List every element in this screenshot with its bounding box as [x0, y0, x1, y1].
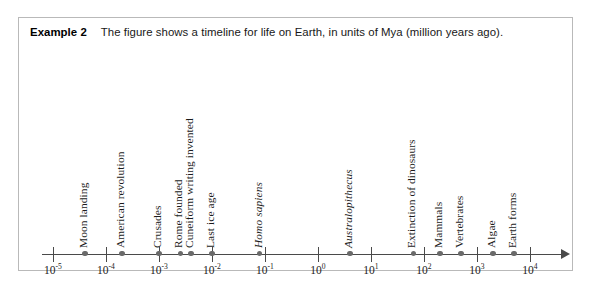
timeline-event-label: Vertebrates — [453, 196, 465, 248]
axis-tick-label: 101 — [363, 264, 378, 276]
axis-tick — [53, 247, 54, 262]
timeline-event-dot — [511, 251, 516, 256]
axis-tick-label: 102 — [416, 264, 431, 276]
axis-tick — [106, 247, 107, 262]
axis-tick — [530, 247, 531, 262]
timeline-event-dot — [209, 251, 214, 256]
timeline-event-label: Extinction of dinosaurs — [405, 139, 417, 248]
axis-tick-label: 100 — [310, 264, 325, 276]
timeline-event-label: Algae — [485, 220, 497, 248]
timeline-event-dot — [188, 251, 193, 256]
timeline-event-dot — [458, 251, 463, 256]
timeline-event-dot — [437, 251, 442, 256]
axis-tick-label: 10-2 — [203, 264, 221, 276]
timeline-event-label: Crusades — [151, 205, 163, 248]
timeline-event-dot — [156, 251, 161, 256]
timeline-event-dot — [257, 251, 262, 256]
axis-tick-label: 10-3 — [150, 264, 168, 276]
axis-tick — [265, 247, 266, 262]
timeline-event-label: Mammals — [432, 202, 444, 248]
timeline-event-dot — [347, 251, 352, 256]
example-text: The figure shows a timeline for life on … — [101, 26, 503, 38]
axis-tick — [318, 247, 319, 262]
timeline-event-dot — [490, 251, 495, 256]
timeline-event-label: Earth forms — [506, 193, 518, 248]
axis-tick-label: 103 — [469, 264, 484, 276]
axis-tick — [371, 247, 372, 262]
timeline-event-label: Homo sapiens — [252, 182, 264, 248]
axis-tick-label: 104 — [522, 264, 537, 276]
timeline-event-label: Moon landing — [77, 183, 89, 248]
axis-tick-label: 10-4 — [97, 264, 115, 276]
timeline-event-dot — [178, 251, 183, 256]
timeline-event-label: American revolution — [114, 152, 126, 248]
timeline-event-label: Cuneiform writing invented — [183, 118, 195, 248]
timeline-event-label: Last ice age — [204, 192, 216, 248]
axis-tick — [477, 247, 478, 262]
axis-tick-label: 10-1 — [256, 264, 274, 276]
axis-tick-label: 10-5 — [44, 264, 62, 276]
timeline-event-dot — [82, 251, 87, 256]
timeline-event-dot — [411, 251, 416, 256]
timeline-event-dot — [119, 251, 124, 256]
timeline-event-label: Australopithecus — [342, 169, 354, 248]
timeline-axis-arrow-icon — [561, 249, 570, 259]
example-box: Example 2The figure shows a timeline for… — [18, 17, 573, 271]
axis-tick — [424, 247, 425, 262]
example-label: Example 2 — [30, 26, 87, 38]
timeline-figure: 10-510-410-310-210-1100101102103104 Moon… — [19, 63, 574, 270]
example-caption: Example 2The figure shows a timeline for… — [30, 25, 563, 41]
